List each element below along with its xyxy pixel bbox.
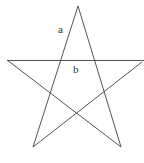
label-a: a <box>58 23 63 35</box>
pentagram-diagram: a b <box>0 0 144 163</box>
edge-top-to-bottom-right <box>78 6 121 147</box>
edge-right-to-bottom-left <box>33 62 142 147</box>
edge-left-to-bottom-right <box>7 60 121 147</box>
label-b: b <box>73 63 79 75</box>
edge-top-to-bottom-left <box>33 6 78 147</box>
